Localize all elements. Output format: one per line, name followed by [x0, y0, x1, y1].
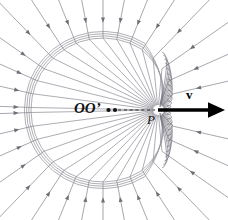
origin-dots [106, 108, 117, 112]
origin-label: OO’ [74, 101, 101, 116]
velocity-label: v [186, 88, 193, 101]
field-line-canvas [0, 0, 228, 220]
physics-field-diagram: OO’ P v [0, 0, 228, 220]
charge-point-label: P [147, 113, 155, 126]
